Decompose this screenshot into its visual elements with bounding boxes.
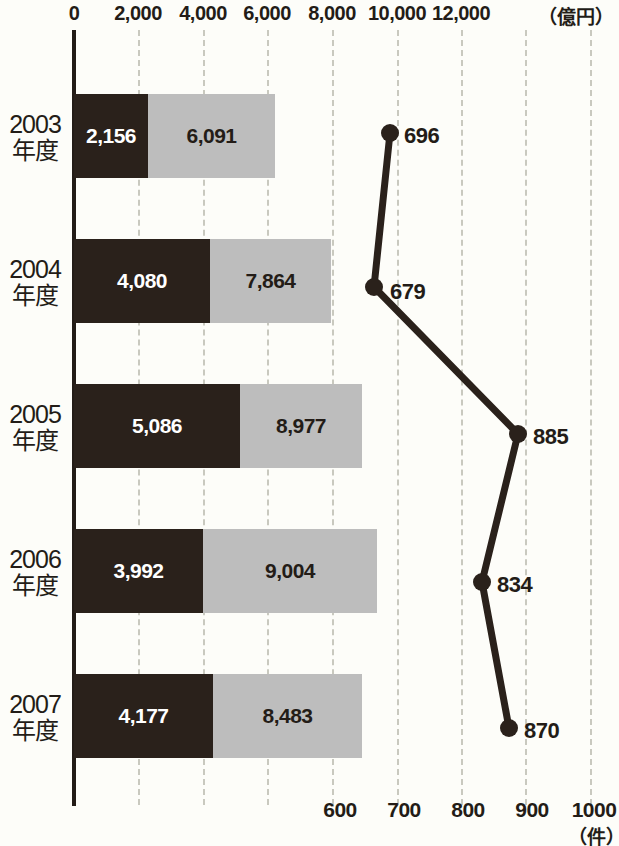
category-label-2004: 2004年度 (0, 255, 70, 310)
top-axis-tick-3: 6,000 (243, 2, 291, 25)
top-axis-tick-2: 4,000 (179, 2, 227, 25)
bar-segment-dark-2005: 5,086 (74, 384, 240, 468)
category-year: 2004 (0, 255, 70, 283)
category-year: 2003 (0, 110, 70, 138)
category-year: 2006 (0, 545, 70, 573)
line-point-label-3: 834 (497, 572, 532, 598)
category-year: 2005 (0, 400, 70, 428)
bar-segment-light-2006: 9,004 (203, 529, 377, 613)
category-label-2007: 2007年度 (0, 690, 70, 745)
bottom-axis-unit-label: （件） (568, 822, 619, 846)
bar-segment-light-2003: 6,091 (148, 94, 275, 178)
category-label-2005: 2005年度 (0, 400, 70, 455)
bar-segment-dark-2003: 2,156 (74, 94, 148, 178)
chart-container: 02,0004,0006,0008,00010,00012,000 （億円） 6… (0, 0, 619, 846)
gridline-5 (461, 30, 463, 805)
line-point-label-4: 870 (524, 718, 559, 744)
bar-value-label: 6,091 (186, 124, 236, 148)
category-label-2006: 2006年度 (0, 545, 70, 600)
bar-value-label: 7,864 (245, 269, 295, 293)
bar-segment-dark-2004: 4,080 (74, 239, 210, 323)
top-axis-tick-1: 2,000 (114, 2, 162, 25)
category-suffix: 年度 (0, 573, 70, 600)
top-axis-tick-5: 10,000 (368, 2, 426, 25)
line-point-label-2: 885 (533, 424, 568, 450)
category-label-2003: 2003年度 (0, 110, 70, 165)
top-axis-unit-label: （億円） (538, 2, 614, 29)
line-series-dots (365, 124, 527, 737)
category-suffix: 年度 (0, 718, 70, 745)
category-year: 2007 (0, 690, 70, 718)
bar-value-label: 8,977 (276, 414, 326, 438)
bar-segment-light-2007: 8,483 (213, 674, 362, 758)
category-suffix: 年度 (0, 283, 70, 310)
bar-segment-dark-2007: 4,177 (74, 674, 213, 758)
top-axis-tick-6: 12,000 (432, 2, 490, 25)
bar-value-label: 9,004 (265, 559, 315, 583)
bar-value-label: 5,086 (132, 414, 182, 438)
bar-segment-light-2005: 8,977 (240, 384, 362, 468)
bottom-axis-tick-0: 600 (323, 798, 357, 822)
bar-value-label: 4,177 (118, 704, 168, 728)
category-suffix: 年度 (0, 428, 70, 455)
gridline-4 (397, 30, 399, 805)
bottom-axis-tick-2: 800 (451, 798, 485, 822)
bar-segment-dark-2006: 3,992 (74, 529, 203, 613)
gridline-7 (590, 30, 592, 805)
category-suffix: 年度 (0, 138, 70, 165)
bar-value-label: 3,992 (113, 559, 163, 583)
line-point-label-0: 696 (404, 123, 439, 149)
bottom-axis-tick-1: 700 (387, 798, 421, 822)
line-point-marker-3 (473, 573, 491, 591)
line-point-marker-4 (500, 719, 518, 737)
bottom-axis-tick-3: 900 (515, 798, 549, 822)
line-point-marker-1 (365, 278, 383, 296)
bar-value-label: 4,080 (117, 269, 167, 293)
line-point-label-1: 679 (390, 279, 425, 305)
bottom-axis-tick-4: 1000 (572, 798, 617, 822)
gridline-6 (525, 30, 527, 805)
top-axis-tick-4: 8,000 (308, 2, 356, 25)
line-series-path (374, 133, 518, 728)
bar-value-label: 8,483 (262, 704, 312, 728)
bar-value-label: 2,156 (86, 124, 136, 148)
bar-segment-light-2004: 7,864 (210, 239, 331, 323)
top-axis-tick-0: 0 (69, 2, 80, 25)
